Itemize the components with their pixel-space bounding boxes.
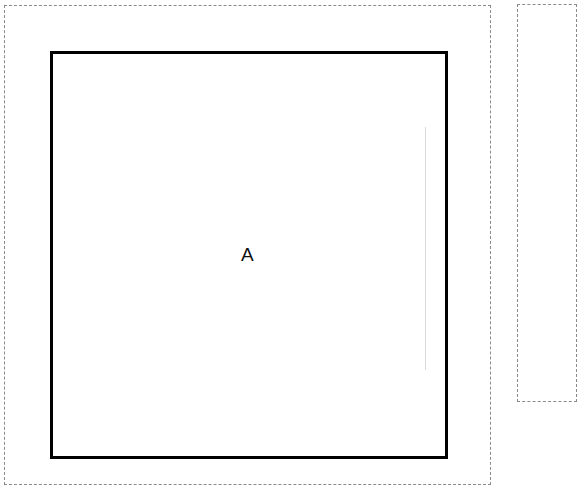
region-a-label: A	[241, 244, 254, 266]
vertical-guide-line	[425, 127, 426, 370]
side-dashed-region	[517, 4, 577, 402]
